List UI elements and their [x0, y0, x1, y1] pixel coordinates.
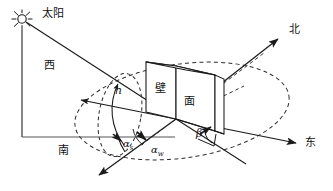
- solar-azimuth-subscript: s: [130, 144, 134, 152]
- east-label: 东: [305, 137, 316, 148]
- wall-azimuth-subscript: w: [158, 150, 164, 158]
- wall-azimuth-alpha: α: [151, 144, 158, 155]
- wall-azimuth-label: αw: [151, 145, 164, 158]
- sun-icon: [12, 10, 33, 30]
- sun-label: 太阳: [42, 8, 64, 19]
- west-label: 西: [44, 60, 55, 71]
- wall-label-left: 壁: [155, 83, 166, 94]
- solar-azimuth-label: αs: [123, 139, 133, 152]
- north-label: 北: [289, 24, 300, 35]
- altitude-angle-label: h: [115, 85, 122, 96]
- solar-geometry-diagram: [0, 0, 333, 191]
- wall-label-right: 面: [184, 96, 195, 107]
- south-label: 南: [58, 145, 69, 156]
- solar-azimuth-alpha: α: [123, 138, 130, 149]
- diagram-canvas: 太阳 西 北 南 东 壁 面 h αs αw β: [0, 0, 333, 191]
- wall-azimuth-tick: [137, 132, 146, 140]
- beta-angle-label: β: [196, 128, 202, 139]
